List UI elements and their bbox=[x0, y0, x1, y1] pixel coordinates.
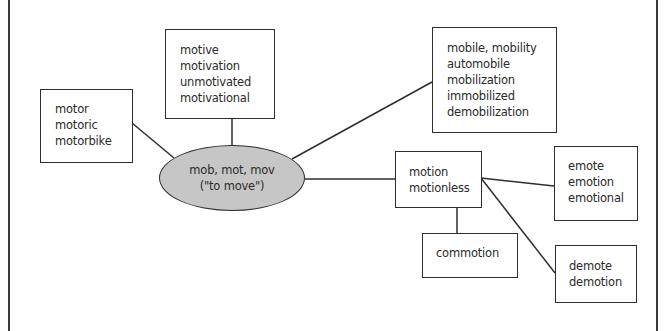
node-commotion: commotion bbox=[422, 233, 518, 278]
word: motivational bbox=[180, 90, 251, 106]
node-motion: motion motionless bbox=[395, 151, 482, 208]
word: demotion bbox=[569, 274, 622, 290]
node-motor: motor motoric motorbike bbox=[40, 89, 133, 163]
edge-root-mobile bbox=[292, 82, 432, 159]
root-label-line-1: mob, mot, mov bbox=[189, 162, 274, 178]
node-motive: motive motivation unmotivated motivation… bbox=[165, 29, 275, 119]
word: unmotivated bbox=[180, 74, 251, 90]
word: motion bbox=[409, 164, 470, 180]
node-demote: demote demotion bbox=[555, 245, 637, 303]
word: motorbike bbox=[55, 133, 112, 149]
node-emote: emote emotion emotional bbox=[554, 146, 638, 221]
word: demote bbox=[569, 258, 622, 274]
word: mobilization bbox=[447, 72, 537, 88]
word: demobilization bbox=[447, 104, 537, 120]
root-label-line-2: ("to move") bbox=[200, 178, 265, 194]
word: motoric bbox=[55, 117, 112, 133]
word: motivation bbox=[180, 58, 251, 74]
word: mobile, mobility bbox=[447, 40, 537, 56]
edge-motion-emote bbox=[481, 178, 554, 186]
word: commotion bbox=[436, 245, 499, 261]
word: motor bbox=[55, 101, 112, 117]
root-node-ellipse: mob, mot, mov ("to move") bbox=[159, 145, 305, 211]
edge-root-motor bbox=[132, 123, 174, 158]
word: emotion bbox=[568, 174, 624, 190]
word: motive bbox=[180, 42, 251, 58]
word: automobile bbox=[447, 56, 537, 72]
word: motionless bbox=[409, 180, 470, 196]
word: emote bbox=[568, 158, 624, 174]
node-mobile: mobile, mobility automobile mobilization… bbox=[432, 27, 557, 133]
word: immobilized bbox=[447, 88, 537, 104]
word: emotional bbox=[568, 190, 624, 206]
